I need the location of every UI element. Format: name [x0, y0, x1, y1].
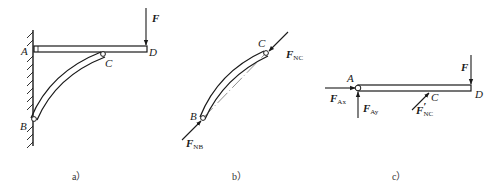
- force-F-label: F: [460, 61, 469, 73]
- figure-c: A D C F FAx FAy F′NC c）: [325, 55, 483, 182]
- caption-a: a）: [72, 171, 86, 182]
- force-FNC-label: FNC: [285, 48, 303, 62]
- figure-a: F A D C B a）: [20, 8, 160, 182]
- curved-bar-BC-free-body: [200, 51, 268, 119]
- force-F-label: F: [151, 12, 160, 24]
- curved-bar-BC: [31, 52, 105, 120]
- wall-support: [27, 30, 33, 148]
- figure-b: C B FNC FNB b）: [182, 32, 303, 182]
- pin-B: [201, 116, 206, 121]
- label-A: A: [20, 45, 28, 57]
- beam-AD-free-body: [358, 85, 471, 91]
- label-B: B: [20, 120, 27, 132]
- force-FAx-label: FAx: [329, 92, 346, 106]
- pin-C: [101, 52, 106, 57]
- beam-AD: [34, 46, 147, 52]
- label-D: D: [474, 88, 483, 100]
- caption-b: b）: [232, 171, 247, 182]
- force-FNB-label: FNB: [185, 137, 203, 151]
- force-FAy-label: FAy: [362, 102, 379, 116]
- pin-B: [32, 117, 37, 122]
- pin-A: [355, 85, 361, 91]
- label-A: A: [346, 72, 354, 84]
- label-C: C: [431, 91, 439, 103]
- label-C: C: [258, 37, 266, 49]
- label-C: C: [105, 57, 113, 69]
- pin-C: [264, 51, 269, 56]
- caption-c: c）: [392, 171, 406, 182]
- line-of-action: [203, 53, 266, 118]
- label-B: B: [190, 110, 197, 122]
- statics-diagram: F A D C B a） C B FNC FNB b）: [0, 0, 491, 196]
- label-D: D: [148, 46, 157, 58]
